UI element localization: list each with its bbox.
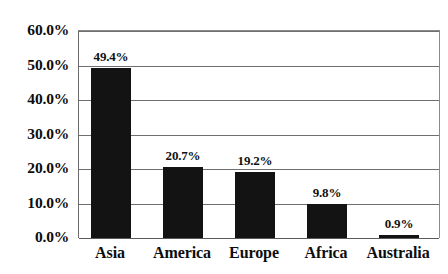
x-axis: AsiaAmericaEuropeAfricaAustralia [78,244,438,274]
y-axis-tick-label: 40.0% [27,90,69,108]
y-axis-tick-label: 10.0% [27,194,69,212]
x-axis-tick-label: Australia [366,244,429,262]
x-axis-tick-label: America [153,244,211,262]
gridline [79,238,439,239]
x-axis-tick-label: Asia [95,244,125,262]
gridline [79,100,439,101]
bar-chart: 0.0%10.0%20.0%30.0%40.0%50.0%60.0% 49.4%… [0,0,448,274]
bar-value-label: 49.4% [94,49,129,65]
bar-value-label: 19.2% [238,153,273,169]
x-axis-tick-label: Europe [229,244,279,262]
bar-value-label: 9.8% [313,185,341,201]
y-axis-tick-label: 50.0% [27,56,69,74]
y-axis-tick-label: 0.0% [35,228,69,246]
y-axis-tick-label: 30.0% [27,125,69,143]
x-axis-tick-label: Africa [305,244,348,262]
bar [163,167,203,238]
bar-value-label: 20.7% [166,148,201,164]
bar [91,68,131,238]
bar [235,172,275,238]
gridline [79,169,439,170]
plot-area: 49.4%20.7%19.2%9.8%0.9% [78,30,440,238]
gridline [79,66,439,67]
y-axis-tick-label: 60.0% [27,21,69,39]
y-axis-tick-label: 20.0% [27,159,69,177]
bar-value-label: 0.9% [385,216,413,232]
y-axis: 0.0%10.0%20.0%30.0%40.0%50.0%60.0% [0,0,74,274]
gridline [79,31,439,32]
gridline [79,135,439,136]
bar [379,235,419,238]
bar [307,204,347,238]
